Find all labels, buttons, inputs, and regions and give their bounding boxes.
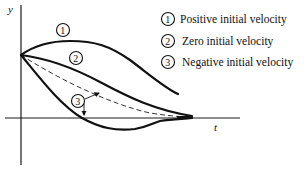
- legend-item-2: 2 Zero initial velocity: [162, 35, 274, 49]
- svg-text:1: 1: [165, 14, 170, 25]
- svg-text:Negative initial velocity: Negative initial velocity: [182, 56, 293, 69]
- legend: 1 Positive initial velocity 2 Zero initi…: [162, 13, 294, 70]
- svg-text:2: 2: [73, 53, 78, 64]
- svg-text:2: 2: [165, 36, 170, 47]
- svg-text:Zero initial velocity: Zero initial velocity: [182, 35, 274, 48]
- t-axis-label: t: [214, 121, 218, 133]
- arrow-to-dashed-curve: [85, 93, 99, 99]
- curve-label-3: 3: [72, 95, 85, 108]
- legend-item-1: 1 Positive initial velocity: [162, 13, 287, 27]
- svg-text:1: 1: [60, 25, 65, 36]
- curve-label-2: 2: [70, 52, 83, 65]
- legend-item-3: 3 Negative initial velocity: [162, 56, 294, 70]
- curve-positive-velocity: [21, 41, 178, 94]
- svg-text:Positive initial velocity: Positive initial velocity: [180, 13, 287, 26]
- svg-text:3: 3: [75, 96, 80, 107]
- response-curves-diagram: y t 1 2 3 1 Positive initial velocity 2 …: [0, 0, 304, 172]
- curve-label-1: 1: [57, 24, 70, 37]
- svg-text:3: 3: [165, 57, 170, 68]
- y-axis-label: y: [7, 3, 13, 15]
